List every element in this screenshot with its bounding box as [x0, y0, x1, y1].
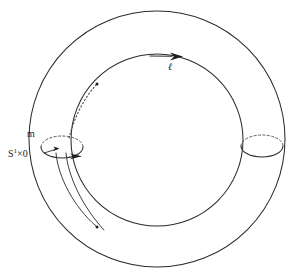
figure-root: m S1×0 ℓ: [0, 0, 297, 279]
torus-diagram: [0, 0, 297, 279]
longitude-label: ℓ: [168, 62, 172, 72]
meridian-label: m: [27, 129, 35, 139]
exterior-curve-endpoint-dot: [96, 226, 99, 229]
inner-boundary-circle: [71, 54, 243, 226]
meridian-disk-leader-arrowhead-icon: [53, 147, 60, 152]
left-meridian-ellipse-hidden-arc: [41, 136, 83, 147]
exterior-solid-curve: [56, 153, 96, 226]
exterior-companion-curve: [66, 153, 104, 230]
meridian-disk-label: S1×0: [8, 148, 28, 159]
right-meridian-ellipse-hidden-arc: [241, 135, 283, 146]
interior-dotted-curve: [69, 85, 96, 138]
interior-curve-endpoint-dot: [96, 83, 99, 86]
right-meridian-ellipse-visible-arc: [241, 146, 283, 157]
meridian-disk-label-rest: ×0: [17, 148, 28, 159]
